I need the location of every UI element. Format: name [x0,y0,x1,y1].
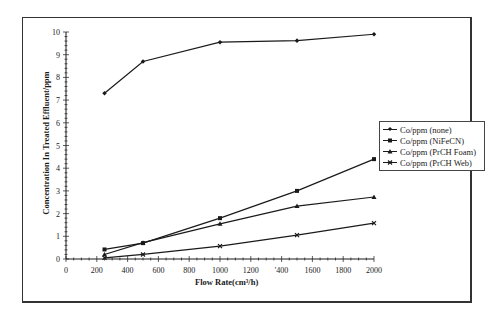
square-marker-icon [103,247,107,251]
x-marker-icon [383,158,397,167]
legend-item-none: Co/ppm (none) [383,124,481,135]
square-marker-icon [383,136,397,145]
x-axis-title: Flow Rate(cm³/h) [195,277,258,287]
diamond-marker-icon [372,32,377,37]
x-tick-label: 0 [64,266,68,275]
x-tick-label: 1800 [335,266,351,275]
x-tick-label: '400 [275,266,288,275]
y-tick-label: 2 [56,210,60,219]
diamond-marker-icon [295,38,300,43]
legend-label: Co/ppm (NiFeCN) [400,136,464,146]
legend-item-prch-web: Co/ppm (PrCH Web) [383,157,481,168]
legend-item-prch-foam: Co/ppm (PrCH Foam) [383,146,481,157]
y-tick-label: 8 [56,73,60,82]
triangle-marker-icon [383,147,397,156]
square-marker-icon [372,157,376,161]
y-tick-label: 9 [56,51,60,60]
y-tick-label: 7 [56,96,60,105]
series-line-0 [105,34,375,93]
y-tick-label: 6 [56,119,60,128]
series-line-2 [105,197,375,254]
legend-item-nifecn: Co/ppm (NiFeCN) [383,135,481,146]
x-tick-label: 1200 [243,266,259,275]
y-tick-label: 4 [56,164,60,173]
y-tick-label: 0 [56,255,60,264]
x-tick-label: 200 [91,266,103,275]
y-tick-label: 3 [56,187,60,196]
diamond-marker-icon [383,125,397,134]
y-tick-label: 5 [56,142,60,151]
x-tick-label: 600 [152,266,164,275]
y-tick-label: 10 [52,28,60,37]
x-tick-label: 800 [183,266,195,275]
x-tick-label: 400 [122,266,134,275]
diamond-marker-icon [218,40,223,45]
x-tick-label: 1600 [304,266,320,275]
y-axis-title: Concentration In Treated Effluent/ppm [41,71,51,214]
x-tick-label: 2000 [366,266,382,275]
legend-label: Co/ppm (none) [400,125,452,135]
legend-label: Co/ppm (PrCH Web) [400,158,472,168]
legend-label: Co/ppm (PrCH Foam) [400,147,476,157]
series-line-1 [105,159,375,249]
square-marker-icon [295,189,299,193]
square-marker-icon [218,216,222,220]
y-tick-label: 1 [56,232,60,241]
x-tick-label: 1000 [212,266,228,275]
legend: Co/ppm (none) Co/ppm (NiFeCN) Co/ppm (Pr… [379,121,485,171]
